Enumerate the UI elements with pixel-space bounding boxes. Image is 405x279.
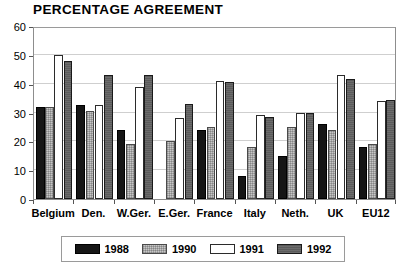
bar-1992	[346, 79, 355, 199]
bar-group	[276, 28, 316, 199]
y-tick-label: 10	[14, 166, 26, 177]
bar-1990	[126, 144, 135, 199]
bar-1990	[45, 107, 54, 199]
bar-1992	[306, 113, 315, 200]
bar-1988	[238, 176, 247, 199]
bar-group	[155, 28, 195, 199]
bar-1991	[337, 75, 346, 199]
x-tick-mark	[235, 200, 236, 204]
x-tick-label: France	[196, 207, 232, 219]
legend-swatch-icon	[75, 244, 100, 254]
legend-swatch-icon	[142, 244, 167, 254]
bar-1990	[166, 141, 175, 199]
bar-1988	[117, 130, 126, 199]
bar-1992	[225, 82, 234, 199]
bar-1992	[265, 117, 274, 199]
legend-label: 1990	[172, 244, 196, 255]
legend-swatch-icon	[210, 244, 235, 254]
bar-1992	[386, 100, 395, 199]
bar-group	[74, 28, 114, 199]
bar-1991	[377, 101, 386, 199]
legend-item-1988: 1988	[75, 244, 129, 255]
x-tick-mark	[194, 200, 195, 204]
bar-1990	[287, 127, 296, 199]
chart-legend: 1988199019911992	[61, 236, 345, 262]
legend-label: 1988	[105, 244, 129, 255]
x-tick-label: UK	[328, 207, 344, 219]
y-tick-label: 40	[14, 79, 26, 90]
bar-1991	[135, 87, 144, 199]
x-tick-mark	[114, 200, 115, 204]
x-tick-mark	[356, 200, 357, 204]
bar-1990	[368, 144, 377, 199]
x-tick-mark	[73, 200, 74, 204]
x-axis: BelgiumDen.W.Ger.E.Ger.FranceItalyNeth.U…	[33, 200, 396, 222]
y-tick-label: 0	[20, 195, 26, 206]
bar-1992	[185, 104, 194, 199]
chart-title: PERCENTAGE AGREEMENT	[33, 2, 223, 17]
x-tick-label: W.Ger.	[117, 207, 151, 219]
bar-1988	[359, 147, 368, 199]
bar-1991	[54, 55, 63, 199]
y-tick-label: 20	[14, 137, 26, 148]
bar-1988	[197, 130, 206, 199]
bar-1991	[296, 113, 305, 200]
bar-1988	[36, 107, 45, 199]
bar-1991	[216, 81, 225, 199]
x-tick-mark	[315, 200, 316, 204]
legend-item-1990: 1990	[142, 244, 196, 255]
bar-1988	[278, 156, 287, 199]
y-tick-label: 30	[14, 108, 26, 119]
chart-figure: PERCENTAGE AGREEMENT 0102030405060 Belgi…	[0, 0, 405, 279]
bar-1990	[86, 111, 95, 199]
bar-1991	[175, 118, 184, 199]
bar-group	[195, 28, 235, 199]
x-tick-mark	[154, 200, 155, 204]
bar-1990	[207, 127, 216, 199]
x-tick-label: Den.	[82, 207, 106, 219]
bar-1992	[104, 75, 113, 199]
bar-group	[316, 28, 356, 199]
x-tick-mark	[275, 200, 276, 204]
y-axis: 0102030405060	[0, 27, 33, 200]
bar-group	[115, 28, 155, 199]
bar-1988	[76, 105, 85, 199]
x-tick-label: EU12	[362, 207, 390, 219]
bar-group	[357, 28, 397, 199]
bar-1992	[64, 61, 73, 199]
bar-1990	[247, 147, 256, 199]
x-tick-label: Neth.	[281, 207, 309, 219]
x-tick-mark	[395, 200, 396, 204]
y-tick-label: 50	[14, 50, 26, 61]
bar-1991	[95, 105, 104, 199]
legend-item-1991: 1991	[210, 244, 264, 255]
plot-area	[33, 27, 396, 200]
bars-layer	[34, 28, 395, 199]
bar-1992	[144, 75, 153, 199]
x-tick-label: E.Ger.	[158, 207, 190, 219]
bar-group	[34, 28, 74, 199]
y-tick-label: 60	[14, 22, 26, 33]
x-tick-label: Italy	[244, 207, 266, 219]
bar-1991	[256, 115, 265, 199]
bar-1988	[318, 124, 327, 199]
bar-1990	[328, 130, 337, 199]
bar-group	[236, 28, 276, 199]
legend-item-1992: 1992	[277, 244, 331, 255]
legend-label: 1991	[240, 244, 264, 255]
legend-swatch-icon	[277, 244, 302, 254]
legend-label: 1992	[307, 244, 331, 255]
x-tick-label: Belgium	[31, 207, 74, 219]
x-tick-mark	[33, 200, 34, 204]
